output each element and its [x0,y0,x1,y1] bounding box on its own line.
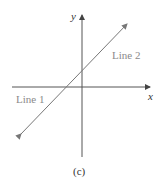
line-1-and-2 [21,24,127,134]
figure-caption: (c) [73,165,86,178]
coincident-lines-diagram: y x Line 2 Line 1 (c) [0,0,162,183]
y-axis-label: y [70,10,76,22]
line-1-label: Line 1 [16,93,44,105]
line-2-label: Line 2 [112,49,140,61]
x-axis-label: x [147,90,153,102]
